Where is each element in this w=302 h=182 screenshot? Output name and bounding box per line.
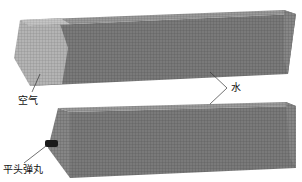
upper-mesh-block <box>14 10 296 86</box>
label-air: 空气 <box>18 96 38 106</box>
projectile-shape <box>45 140 58 147</box>
label-projectile: 平头弹丸 <box>3 165 43 175</box>
mesh-diagram <box>0 0 302 182</box>
lower-mesh-block <box>48 102 296 178</box>
label-water: 水 <box>231 83 241 93</box>
